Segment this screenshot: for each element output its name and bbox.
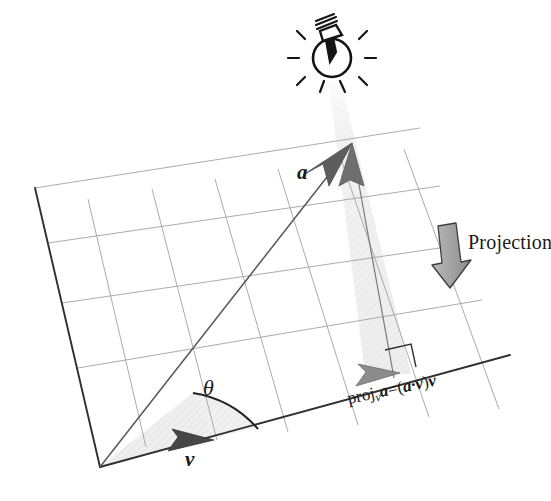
down-arrow-icon (432, 223, 471, 288)
vector-projection-figure: Projection a v θ projva=(a·v)v (0, 0, 551, 501)
vector-v-label: v (185, 447, 194, 472)
grid-plane (35, 128, 499, 447)
plane-left-edge (35, 188, 100, 467)
light-bulb-icon (288, 14, 376, 92)
plane-base-line (100, 355, 510, 467)
light-shadow-cone (329, 82, 411, 374)
projection-label: Projection (468, 231, 551, 254)
vector-a-label: a (297, 160, 308, 185)
formula-proj: proj (346, 384, 377, 408)
angle-theta-label: θ (203, 375, 214, 401)
